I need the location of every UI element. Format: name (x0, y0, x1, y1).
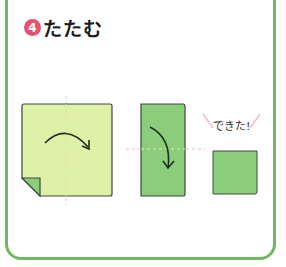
folding-diagram (0, 0, 286, 267)
square-paper-illustration (22, 96, 112, 205)
sparkle-left-icon (203, 114, 213, 128)
sparkle-right-icon (250, 114, 260, 128)
folded-corner-icon (22, 178, 40, 196)
folded-rectangle-illustration (141, 104, 185, 196)
done-label: できた! (213, 117, 250, 133)
